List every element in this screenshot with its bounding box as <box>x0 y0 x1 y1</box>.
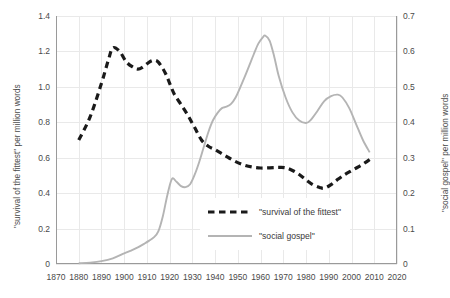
y-axis-left-tick-label: 1.2 <box>22 47 50 56</box>
x-axis-tick-label: 1880 <box>68 273 90 282</box>
y-axis-left-tick-label: 1.0 <box>22 83 50 92</box>
x-axis-tick-label: 1890 <box>90 273 112 282</box>
y-axis-right-title-area: "social gospel" per million words <box>429 0 447 298</box>
x-axis-tick-label: 1910 <box>136 273 158 282</box>
legend-item-social-gospel[interactable]: "social gospel" <box>208 228 315 244</box>
x-axis-tick-label: 1970 <box>272 273 294 282</box>
y-axis-right-tick-label: 0.3 <box>403 154 415 163</box>
x-axis-tick-label: 1960 <box>250 273 272 282</box>
y-axis-left-tick-label: 0.6 <box>22 154 50 163</box>
y-axis-left-title-area: "survival of the fittest" per million wo… <box>0 0 18 298</box>
legend-swatch-solid <box>208 231 252 241</box>
gridline-horizontal <box>56 264 397 265</box>
legend-label-social-gospel: "social gospel" <box>259 231 315 241</box>
y-axis-right-tick-label: 0.5 <box>403 83 415 92</box>
x-axis-tick-label: 2010 <box>363 273 385 282</box>
y-axis-right-title: "social gospel" per million words <box>440 94 450 212</box>
y-axis-left-tick-label: 0.8 <box>22 118 50 127</box>
y-axis-right-tick-label: 0.4 <box>403 118 415 127</box>
y-axis-left-tick-label: 0.4 <box>22 189 50 198</box>
y-axis-left-tick-label: 1.4 <box>22 12 50 21</box>
x-axis-tick-label: 1920 <box>159 273 181 282</box>
x-axis-tick-label: 1990 <box>318 273 340 282</box>
legend: "survival of the fittest" "social gospel… <box>200 198 350 250</box>
x-axis-tick-label: 1940 <box>204 273 226 282</box>
y-axis-right-tick-label: 0 <box>403 260 408 269</box>
x-axis-tick-label: 1900 <box>113 273 135 282</box>
y-axis-right-tick-label: 0.1 <box>403 225 415 234</box>
legend-label-survival-of-the-fittest: "survival of the fittest" <box>259 207 341 217</box>
series-line-survival-of-the-fittest <box>79 47 370 188</box>
legend-item-survival-of-the-fittest[interactable]: "survival of the fittest" <box>208 204 341 220</box>
x-axis-tick-label: 2020 <box>386 273 408 282</box>
legend-swatch-dashed <box>208 207 252 217</box>
x-axis-tick-label: 1980 <box>295 273 317 282</box>
x-axis-tick-label: 1950 <box>227 273 249 282</box>
y-axis-right-tick-label: 0.6 <box>403 47 415 56</box>
x-axis-tick-label: 2000 <box>341 273 363 282</box>
y-axis-right-tick-label: 0.7 <box>403 12 415 21</box>
x-axis-tick-label: 1930 <box>181 273 203 282</box>
y-axis-left-tick-label: 0.2 <box>22 225 50 234</box>
y-axis-left-tick-label: 0 <box>22 260 50 269</box>
x-axis-tick-label: 1870 <box>45 273 67 282</box>
y-axis-right-tick-label: 0.2 <box>403 189 415 198</box>
y-axis-left-title: "survival of the fittest" per million wo… <box>12 84 22 228</box>
gridline-vertical <box>397 16 398 264</box>
